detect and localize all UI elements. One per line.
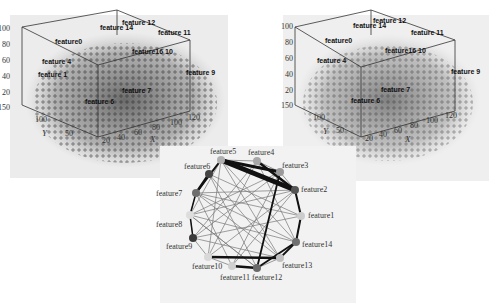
node-feature12[interactable]: [253, 264, 261, 272]
node-feature4[interactable]: [253, 157, 261, 165]
feature-network-graph: feature5 feature4 feature3 feature2 feat…: [160, 146, 356, 303]
svg-text:feature 6: feature 6: [85, 98, 114, 105]
node-feature9[interactable]: [189, 234, 197, 242]
z-axis-ticks: 100 80 60 40 20: [281, 22, 293, 95]
svg-text:feature1: feature1: [308, 211, 334, 220]
node-feature6[interactable]: [205, 170, 213, 178]
z-axis-ticks: 100 80 60 40 20: [0, 24, 10, 97]
x-axis-label: X: [149, 134, 156, 144]
svg-text:feature13: feature13: [282, 261, 312, 270]
svg-text:feature0: feature0: [325, 37, 352, 44]
svg-text:80: 80: [2, 40, 10, 49]
svg-text:feature 7: feature 7: [122, 87, 151, 94]
svg-text:feature 14: feature 14: [100, 24, 133, 31]
svg-text:80: 80: [152, 123, 160, 132]
x-axis-label: X: [404, 134, 411, 144]
svg-text:80: 80: [410, 121, 418, 130]
svg-text:100: 100: [0, 24, 10, 33]
svg-text:feature12: feature12: [252, 273, 282, 282]
node-feature14[interactable]: [292, 238, 300, 246]
y-tick-100: 100: [313, 113, 325, 122]
node-feature10[interactable]: [204, 253, 212, 261]
svg-text:feature 4: feature 4: [317, 57, 346, 64]
svg-text:80: 80: [285, 38, 293, 47]
svg-text:40: 40: [117, 133, 125, 142]
svg-text:feature 9: feature 9: [186, 69, 215, 76]
svg-text:feature10: feature10: [192, 262, 222, 271]
svg-text:20: 20: [365, 134, 373, 143]
svg-text:100: 100: [426, 116, 438, 125]
svg-text:feature8: feature8: [156, 220, 182, 229]
svg-text:feature 9: feature 9: [451, 68, 480, 75]
svg-text:60: 60: [2, 56, 10, 65]
y-tick-150: 150: [0, 103, 10, 112]
svg-text:feature7: feature7: [156, 189, 182, 198]
svg-text:20: 20: [2, 88, 10, 97]
svg-text:20: 20: [102, 136, 110, 145]
node-feature2[interactable]: [291, 186, 299, 194]
svg-text:feature14: feature14: [302, 240, 332, 249]
svg-text:40: 40: [285, 70, 293, 79]
svg-text:feature2: feature2: [301, 185, 327, 194]
svg-text:feature4: feature4: [248, 148, 274, 157]
svg-text:feature3: feature3: [282, 161, 308, 170]
svg-text:feature 1: feature 1: [38, 71, 67, 78]
node-feature1[interactable]: [297, 212, 305, 220]
network-nodes: [186, 156, 305, 272]
svg-text:feature 11: feature 11: [158, 29, 191, 36]
svg-text:feature0: feature0: [55, 38, 82, 45]
network-panel: feature5 feature4 feature3 feature2 feat…: [160, 146, 356, 303]
node-feature7[interactable]: [192, 189, 200, 197]
svg-text:feature16 10: feature16 10: [132, 48, 173, 55]
svg-text:20: 20: [285, 86, 293, 95]
svg-text:feature9: feature9: [166, 242, 192, 251]
y-tick-50: 50: [65, 129, 73, 138]
node-feature5[interactable]: [217, 156, 225, 164]
svg-text:feature6: feature6: [184, 162, 210, 171]
svg-text:feature 7: feature 7: [381, 86, 410, 93]
svg-text:feature 11: feature 11: [411, 29, 444, 36]
node-feature8[interactable]: [186, 211, 194, 219]
svg-text:feature 4: feature 4: [42, 58, 71, 65]
svg-text:40: 40: [379, 130, 387, 139]
svg-text:100: 100: [281, 22, 293, 31]
svg-text:120: 120: [188, 113, 200, 122]
svg-text:40: 40: [2, 72, 10, 81]
svg-text:feature16 10: feature16 10: [385, 47, 426, 54]
y-tick-100: 100: [35, 115, 47, 124]
svg-text:60: 60: [134, 128, 142, 137]
node-feature11[interactable]: [228, 262, 236, 270]
svg-text:60: 60: [285, 54, 293, 63]
y-tick-150: 150: [281, 101, 293, 110]
svg-text:feature 14: feature 14: [353, 22, 386, 29]
svg-text:feature 6: feature 6: [351, 97, 380, 104]
svg-text:60: 60: [394, 126, 402, 135]
svg-text:feature5: feature5: [210, 147, 236, 156]
svg-text:100: 100: [170, 118, 182, 127]
y-tick-50: 50: [336, 126, 344, 135]
svg-text:120: 120: [445, 111, 457, 120]
svg-text:feature11: feature11: [220, 273, 250, 282]
